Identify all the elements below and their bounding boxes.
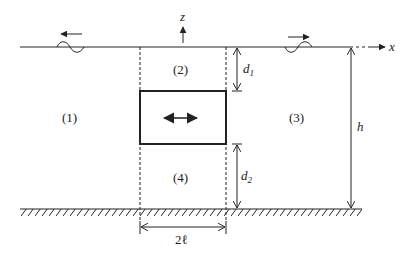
region-1-label: (1) [62,110,77,125]
left-wave [57,34,84,52]
z-axis-label: z [179,9,185,24]
svg-text:h: h [357,119,364,134]
diagram-canvas: x z (1) (2) (3) (4) d1 d2 h [0,0,404,256]
svg-text:d2: d2 [241,168,253,185]
width-dimension: 2ℓ [140,221,226,247]
x-axis: x [368,39,395,54]
x-axis-label: x [388,39,395,54]
region-3-label: (3) [289,110,304,125]
d2-dimension: d2 [232,144,253,208]
right-wave [285,37,312,52]
z-axis: z [179,9,185,43]
region-4-label: (4) [173,170,188,185]
region-2-label: (2) [173,62,188,77]
svg-text:2ℓ: 2ℓ [175,232,188,247]
h-dimension: h [351,48,364,208]
svg-text:d1: d1 [243,61,254,78]
d1-dimension: d1 [232,48,254,91]
seabed [20,209,362,216]
